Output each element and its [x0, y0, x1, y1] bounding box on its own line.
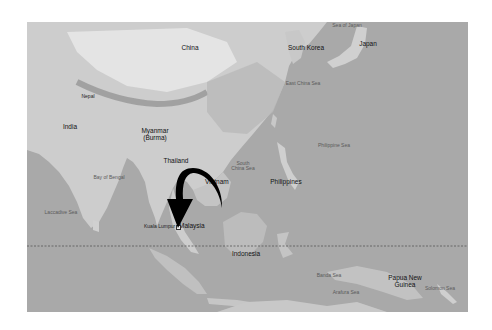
label-arafura-sea: Arafura Sea [333, 290, 360, 295]
label-thailand: Thailand [164, 158, 189, 165]
label-sea-of-japan: Sea of Japan [332, 23, 361, 28]
label-nepal: Nepal [81, 94, 94, 99]
label-vietnam: Vietnam [205, 179, 229, 186]
label-solomon-sea: Solomon Sea [425, 286, 455, 291]
label-china: China [182, 45, 199, 52]
sulawesi [277, 232, 293, 258]
label-png-line2: Guinea [388, 282, 422, 289]
label-bay-of-bengal: Bay of Bengal [93, 175, 124, 180]
label-philippine-sea: Philippine Sea [318, 143, 350, 148]
label-japan: Japan [359, 41, 377, 48]
label-east-china-sea: East China Sea [286, 81, 321, 86]
label-malaysia: Malaysia [179, 223, 205, 230]
label-laccadive-sea: Laccadive Sea [45, 210, 78, 215]
kuala-lumpur-marker[interactable] [176, 225, 181, 230]
label-philippines: Philippines [270, 179, 301, 186]
malay-peninsula [169, 188, 199, 254]
label-south-korea: South Korea [288, 45, 324, 52]
map-view[interactable]: China South Korea Japan Nepal India Myan… [27, 22, 468, 312]
label-myanmar: Myanmar (Burma) [141, 128, 168, 141]
label-scs-line2: China Sea [231, 166, 254, 171]
label-banda-sea: Banda Sea [317, 273, 342, 278]
label-myanmar-line2: (Burma) [141, 135, 168, 142]
sri-lanka [93, 220, 99, 232]
taiwan [271, 114, 277, 128]
label-indonesia: Indonesia [232, 251, 260, 258]
label-south-china-sea: South China Sea [231, 161, 254, 171]
label-kuala-lumpur: Kuala Lumpur [144, 224, 175, 229]
label-india: India [63, 124, 77, 131]
sumatra [149, 248, 207, 294]
label-papua-new-guinea: Papua New Guinea [388, 275, 422, 288]
